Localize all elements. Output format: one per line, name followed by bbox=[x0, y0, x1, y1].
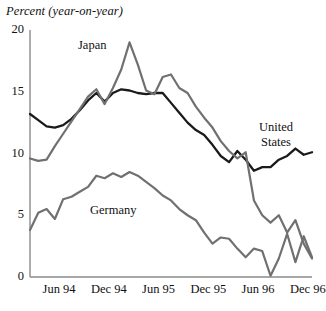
germany-label: Germany bbox=[90, 203, 137, 218]
x-tick-label: Jun 94 bbox=[43, 282, 76, 297]
y-tick-label: 20 bbox=[2, 22, 24, 37]
axis-lines bbox=[30, 30, 312, 277]
x-tick-label: Jun 95 bbox=[142, 282, 175, 297]
y-tick-label: 0 bbox=[2, 269, 24, 284]
x-tick-label: Dec 96 bbox=[290, 282, 326, 297]
series-paths bbox=[30, 42, 312, 275]
y-tick-label: 10 bbox=[2, 146, 24, 161]
japan-label: Japan bbox=[78, 38, 106, 53]
series-line-japan bbox=[30, 42, 312, 258]
y-tick-label: 15 bbox=[2, 84, 24, 99]
x-tick-label: Dec 94 bbox=[91, 282, 127, 297]
x-tick-label: Jun 96 bbox=[242, 282, 275, 297]
series-line-germany bbox=[30, 172, 312, 276]
y-tick-label: 5 bbox=[2, 207, 24, 222]
x-tick-label: Dec 95 bbox=[190, 282, 226, 297]
united-states-label: UnitedStates bbox=[259, 120, 293, 150]
